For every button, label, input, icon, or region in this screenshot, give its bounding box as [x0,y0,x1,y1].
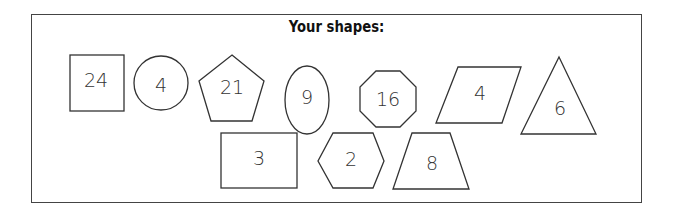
svg-text:3: 3 [253,147,265,169]
shape-triangle: 6 [521,57,596,134]
shape-rectangle: 3 [221,133,297,188]
svg-text:8: 8 [426,152,438,174]
shapes-canvas: 24 4 21 9 16 4 6 3 2 8 [0,0,673,213]
svg-text:2: 2 [345,148,357,170]
shape-trapezoid: 8 [393,133,469,189]
shape-parallelogram: 4 [436,67,521,123]
svg-text:16: 16 [376,88,400,110]
shape-circle: 4 [134,56,188,110]
svg-text:21: 21 [220,76,244,98]
shape-pentagon: 21 [199,55,264,121]
svg-text:4: 4 [474,82,486,104]
shape-ellipse: 9 [285,66,329,134]
svg-text:9: 9 [301,86,313,108]
shape-hexagon: 2 [318,133,384,188]
svg-text:6: 6 [554,97,566,119]
svg-text:24: 24 [84,69,108,91]
shape-octagon: 16 [360,71,416,127]
shape-square: 24 [70,55,124,111]
svg-text:4: 4 [155,74,167,96]
